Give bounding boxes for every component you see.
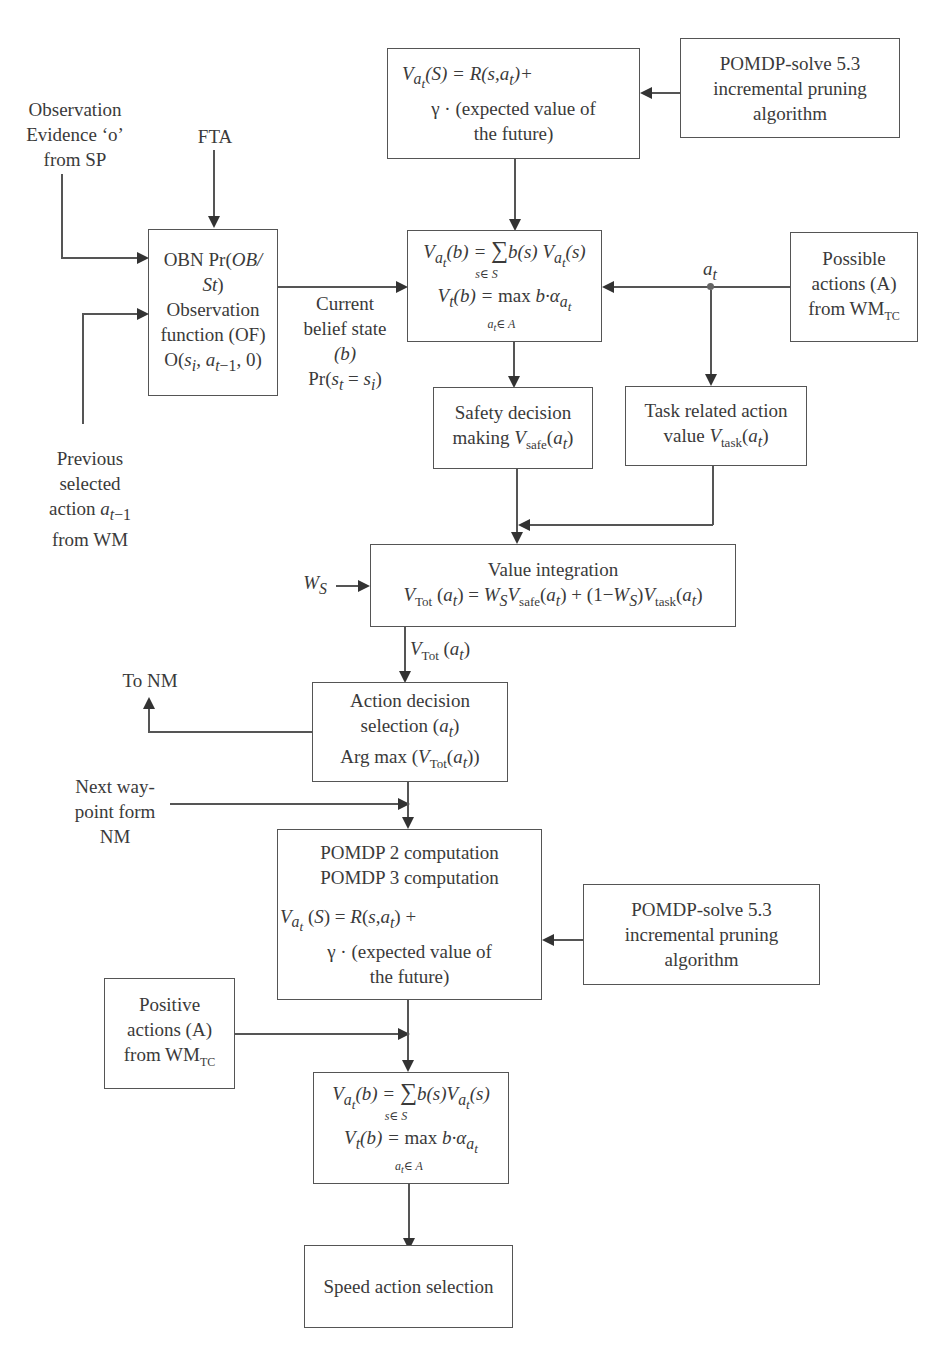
safety-decision-box: Safety decision making Vsafe(at) [433,387,593,469]
sum-subscript: s∈ S [475,269,498,279]
arrow-left-icon [542,934,554,946]
max-subscript: at∈ A [488,319,516,333]
obn-line1: OBN Pr(OB/ [164,247,263,272]
arrow-down-icon [705,374,717,386]
pomdp-solve-bottom-box: POMDP-solve 5.3 incremental pruning algo… [583,884,820,985]
connector [61,174,63,258]
pomdp-solve-title: POMDP-solve 5.3 [720,51,860,76]
value-function-eq: Vat(S) = R(s,at)+ [388,61,533,97]
obn-line3: Observation [167,297,260,322]
connector [235,1033,401,1035]
obn-line2: St) [202,272,223,297]
current-belief-label: Current belief state (b) Pr(st = si) [290,291,400,397]
belief-sum-eq: Vat(b) = ∑b(s) Vat(s) [423,238,585,275]
ws-label: WS [300,570,330,601]
connector [170,803,400,805]
possible-actions-box: Possible actions (A) from WMTC [790,232,918,342]
vtot-label: VTot (at) [410,636,510,668]
connector [82,314,84,424]
connector [712,466,714,525]
fta-label: FTA [180,124,250,149]
connector [408,1184,410,1240]
action-decision-box: Action decision selection (at) Arg max (… [312,682,508,782]
connector [278,286,398,288]
arrow-left-icon [518,519,530,531]
pomdp-computation-box: POMDP 2 computation POMDP 3 computation … [277,829,542,1000]
connector [407,1000,409,1060]
connector [336,585,360,587]
arrow-down-icon [208,216,220,228]
connector [514,159,516,221]
arrow-right-icon [358,580,370,592]
to-nm-label: To NM [110,668,190,693]
task-related-box: Task related action value Vtask(at) [625,386,807,466]
connector [528,524,713,526]
arrow-left-icon [640,87,652,99]
connector [554,939,583,941]
obn-box: OBN Pr(OB/ St) Observation function (OF)… [148,229,278,396]
obn-line4: function (OF) [160,322,265,347]
speed-action-box: Speed action selection [304,1245,513,1328]
arrow-down-icon [402,817,414,829]
next-waypoint-label: Next way- point form NM [55,774,175,849]
belief-value-box: Vat(b) = ∑b(s) Vat(s) s∈ S Vt(b) = max b… [407,230,602,342]
connector [513,342,515,377]
connector [82,313,140,315]
junction-dot [707,283,714,290]
connector [407,782,409,818]
connector [404,627,406,671]
value-function-gamma: γ · (expected value of [431,96,596,121]
arrow-left-icon [602,281,614,293]
speed-action-label: Speed action selection [324,1274,494,1299]
pomdp-solve-subtitle: incremental pruning [713,76,867,101]
arrow-right-icon [137,308,149,320]
arrow-down-icon [511,532,523,544]
value-function-top-box: Vat(S) = R(s,at)+ γ · (expected value of… [387,48,640,159]
connector [614,286,790,288]
value-integration-box: Value integration VTot (at) = WSVsafe(at… [370,544,736,627]
connector [148,708,150,732]
pomdp-solve-top-box: POMDP-solve 5.3 incremental pruning algo… [680,38,900,138]
belief-value-box-bottom: Vat(b) = ∑b(s)Vat(s) s∈ S Vt(b) = max b·… [313,1072,509,1184]
connector [652,92,680,94]
obn-line5: O(si, at−1, 0) [164,347,261,378]
pomdp-solve-algorithm: algorithm [753,101,827,126]
connector [710,290,712,376]
observation-evidence-label: Observation Evidence ‘o’ from SP [10,97,140,172]
connector [148,731,312,733]
belief-max-eq: Vt(b) = max b·αat [438,283,572,319]
arrow-up-icon [143,697,155,709]
value-function-future: the future) [474,121,554,146]
connector [61,257,141,259]
previous-action-label: Previous selected action at−1 from WM [30,446,150,552]
connector [213,150,215,216]
arrow-down-icon [402,1060,414,1072]
positive-actions-box: Positive actions (A) from WMTC [104,978,235,1089]
